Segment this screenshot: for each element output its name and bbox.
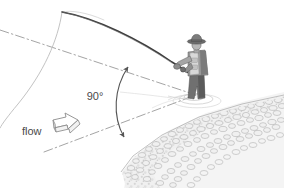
angle-label: 90°	[87, 90, 104, 102]
flow-label: flow	[22, 125, 42, 137]
diagram-canvas: 90° flow	[0, 0, 284, 188]
fishing-reel	[180, 67, 185, 72]
fishing-cast-angle-diagram: 90° flow	[0, 0, 284, 188]
